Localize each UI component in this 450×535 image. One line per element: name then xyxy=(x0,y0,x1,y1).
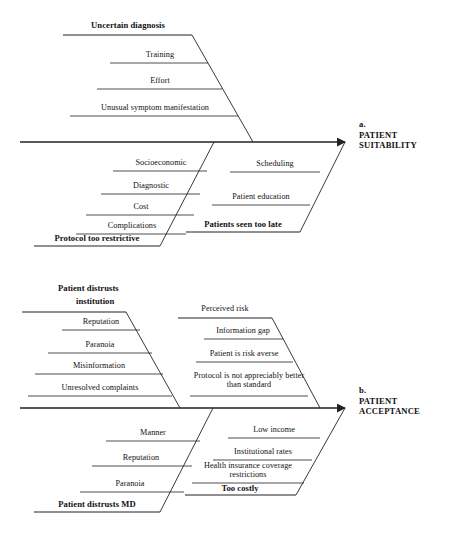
effect-label-a: a. PATIENT SUITABILITY xyxy=(359,119,417,151)
cause-label-patient-is-risk-averse: Patient is risk averse xyxy=(210,349,279,359)
rib-b-too-costly xyxy=(296,408,345,495)
rib-b-patient-distrusts-md xyxy=(160,408,213,512)
rib-a-patients-seen-too-late xyxy=(300,142,345,232)
effect-line2-b: ACCEPTANCE xyxy=(359,406,420,417)
cause-label-protocol-not-appreciably-better: Protocol is not appreciably better than … xyxy=(192,371,306,390)
cause-label-effort: Effort xyxy=(150,76,170,86)
cause-label-cost: Cost xyxy=(133,202,148,212)
cause-label-patient-education: Patient education xyxy=(232,192,289,202)
rib-b-perceived-risk xyxy=(272,318,320,408)
cause-label-reputation-institution: Reputation xyxy=(83,317,119,327)
category-label-too-costly: Too costly xyxy=(221,483,258,493)
category-label-uncertain-diagnosis: Uncertain diagnosis xyxy=(91,20,165,30)
cause-label-paranoia-md: Paranoia xyxy=(115,479,144,489)
cause-label-manner: Manner xyxy=(140,428,166,438)
cause-label-unusual-symptom-manifestation: Unusual symptom manifestation xyxy=(101,103,209,113)
rib-a-uncertain-diagnosis xyxy=(192,35,253,142)
effect-marker-b: b. xyxy=(359,385,420,396)
cause-label-complications: Complications xyxy=(108,221,156,231)
cause-label-health-insurance-coverage-restrictions: Health insurance coverage restrictions xyxy=(192,461,304,480)
category-label-patient-distrusts-institution-line2: institution xyxy=(76,296,114,306)
effect-marker-a: a. xyxy=(359,119,417,130)
category-label-patients-seen-too-late: Patients seen too late xyxy=(204,219,282,229)
effect-line1-b: PATIENT xyxy=(359,396,420,407)
category-label-patient-distrusts-institution-line1: Patient distrusts xyxy=(58,283,119,293)
cause-label-reputation-md: Reputation xyxy=(123,453,159,463)
cause-label-training: Training xyxy=(146,50,174,60)
cause-label-institutional-rates: Institutional rates xyxy=(234,447,292,457)
cause-label-information-gap: Information gap xyxy=(216,326,270,336)
cause-label-socioeconomic: Socioeconomic xyxy=(135,158,186,168)
rib-b-patient-distrusts-institution xyxy=(126,312,180,408)
fishbone-diagram-figure: Uncertain diagnosis Training Effort Unus… xyxy=(0,0,450,535)
effect-line1-a: PATIENT xyxy=(359,130,417,141)
cause-label-diagnostic: Diagnostic xyxy=(133,181,169,191)
category-label-patient-distrusts-md: Patient distrusts MD xyxy=(58,499,135,509)
effect-line2-a: SUITABILITY xyxy=(359,140,417,151)
category-label-protocol-too-restrictive: Protocol too restrictive xyxy=(55,233,140,243)
cause-label-scheduling: Scheduling xyxy=(256,159,293,169)
fishbone-linework xyxy=(0,0,450,535)
cause-label-low-income: Low income xyxy=(253,425,295,435)
effect-label-b: b. PATIENT ACCEPTANCE xyxy=(359,385,420,417)
cause-label-unresolved-complaints: Unresolved complaints xyxy=(62,383,139,393)
cause-label-misinformation: Misinformation xyxy=(73,361,125,371)
cause-label-paranoia-institution: Paranoia xyxy=(85,340,114,350)
category-label-perceived-risk: Perceived risk xyxy=(201,304,248,314)
